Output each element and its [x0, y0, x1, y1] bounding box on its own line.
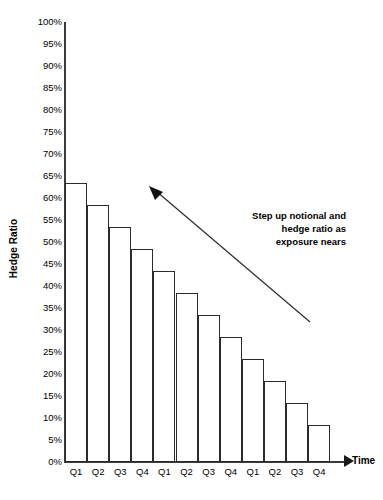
bar: [65, 183, 87, 462]
bar: [176, 293, 198, 462]
bar: [87, 205, 109, 462]
hedge-ratio-bar-chart: Hedge Ratio 100%95%90%85%80%75%70%65%60%…: [0, 0, 383, 500]
x-axis-tick-label: Q2: [86, 466, 110, 477]
bar: [198, 315, 220, 462]
x-axis-tick-label: Q1: [241, 466, 265, 477]
annotation-step-up-note: Step up notional andhedge ratio asexposu…: [196, 209, 346, 248]
y-axis-tick-label: 10%: [2, 413, 62, 423]
y-axis-tick-label: 45%: [2, 259, 62, 269]
x-axis-tick-label: Q4: [307, 466, 331, 477]
y-axis-tick-label: 5%: [2, 435, 62, 445]
x-axis-tick-label: Q1: [152, 466, 176, 477]
x-axis-tick-label: Q3: [108, 466, 132, 477]
bar: [242, 359, 264, 462]
bar: [308, 425, 330, 462]
bar: [286, 403, 308, 462]
y-axis-tick-label: 40%: [2, 281, 62, 291]
y-axis-tick-label: 75%: [2, 127, 62, 137]
x-axis-tick-label: Q2: [175, 466, 199, 477]
x-axis-tick-label: Q1: [64, 466, 88, 477]
annotation-line: Step up notional and: [196, 209, 346, 222]
bar: [109, 227, 131, 462]
y-axis-tick-label: 30%: [2, 325, 62, 335]
y-axis-tick-label: 15%: [2, 391, 62, 401]
y-axis-tick-label: 50%: [2, 237, 62, 247]
y-axis-tick-label: 60%: [2, 193, 62, 203]
y-axis-tick-label: 20%: [2, 369, 62, 379]
bar: [220, 337, 242, 462]
x-axis-tick-label: Q4: [219, 466, 243, 477]
y-axis-tick-label: 55%: [2, 215, 62, 225]
y-axis-tick-label: 90%: [2, 61, 62, 71]
y-axis-tick-label: 85%: [2, 83, 62, 93]
x-axis-title: Time: [352, 455, 375, 466]
y-axis-tick-labels: 100%95%90%85%80%75%70%65%60%55%50%45%40%…: [0, 0, 62, 500]
x-axis-tick-label: Q3: [285, 466, 309, 477]
y-axis-tick-label: 65%: [2, 171, 62, 181]
bar: [153, 271, 175, 462]
x-axis-tick-label: Q3: [197, 466, 221, 477]
y-axis-tick-label: 25%: [2, 347, 62, 357]
bar: [264, 381, 286, 462]
x-axis-tick-label: Q4: [130, 466, 154, 477]
y-axis-tick-label: 80%: [2, 105, 62, 115]
x-axis-tick-label: Q2: [263, 466, 287, 477]
y-axis-tick-label: 0%: [2, 457, 62, 467]
y-axis-tick-label: 35%: [2, 303, 62, 313]
annotation-line: exposure nears: [196, 235, 346, 248]
annotation-line: hedge ratio as: [196, 222, 346, 235]
bar: [131, 249, 153, 462]
y-axis-tick-label: 95%: [2, 39, 62, 49]
y-axis-tick-label: 70%: [2, 149, 62, 159]
y-axis-tick-label: 100%: [2, 17, 62, 27]
